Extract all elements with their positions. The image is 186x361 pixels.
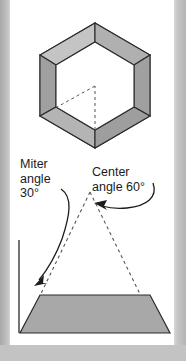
hexagon-rail-right — [134, 55, 150, 116]
miter-angle-label-line2: angle — [20, 172, 51, 187]
center-angle-label-line2: angle 60° — [92, 180, 145, 195]
miter-angle-label: Miter angle 30° — [20, 157, 51, 201]
page-edge-bottom — [0, 345, 186, 361]
figure-page: Miter angle 30° Center angle 60° — [0, 0, 186, 361]
frame-segment-trapezoid — [20, 295, 170, 333]
page-edge-right — [174, 0, 186, 361]
miter-angle-arrow-curve — [39, 189, 69, 280]
hexagon-rail-left — [40, 55, 56, 116]
miter-angle-label-line1: Miter — [20, 157, 51, 172]
hexagon-frame-group — [40, 23, 150, 148]
center-angle-label-line1: Center — [92, 165, 145, 180]
page-edge-left — [0, 0, 10, 361]
center-angle-diagram — [19, 183, 170, 333]
center-angle-label: Center angle 60° — [92, 165, 145, 194]
miter-angle-label-line3: 30° — [20, 186, 51, 201]
